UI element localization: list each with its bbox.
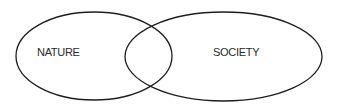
society-label: SOCIETY (213, 46, 260, 58)
nature-label: NATURE (37, 46, 80, 58)
venn-diagram: NATURE SOCIETY (0, 0, 338, 106)
